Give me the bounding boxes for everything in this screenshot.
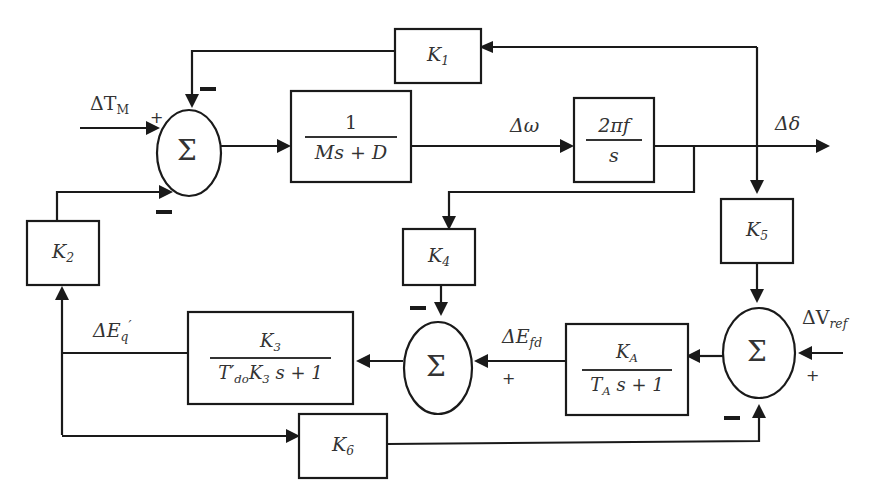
block-field-tf: K3 T′doK3 s + 1 (188, 312, 353, 404)
sign-minus-k2 (156, 210, 172, 214)
arrowhead (560, 139, 574, 153)
exciter-denominator: TA s + 1 (584, 371, 669, 398)
arrowhead (750, 180, 764, 194)
wire-k2-to-sum1 (57, 192, 165, 221)
arrowhead (434, 302, 448, 316)
arrowhead (816, 139, 830, 153)
label-vref-input: ΔVref (802, 306, 847, 331)
mech-numerator: 1 (339, 111, 363, 136)
sign-plus-vref: + (806, 366, 819, 385)
exciter-numerator: KA (610, 341, 644, 368)
arrowhead (277, 139, 291, 153)
summer-2-symbol: Σ (426, 350, 446, 383)
arrowhead (185, 94, 199, 108)
arrowhead (798, 346, 812, 360)
block-k2-label: K2 (27, 221, 99, 285)
label-efd: ΔEfd (502, 325, 542, 350)
block-integrator-tf: 2πf s (574, 98, 654, 182)
arrowhead (356, 354, 370, 368)
summer-3-symbol: Σ (747, 335, 767, 368)
label-omega: Δω (510, 114, 539, 136)
wire-to-k4 (449, 146, 694, 222)
arrowhead (286, 429, 300, 443)
block-exciter-tf: KA TA s + 1 (566, 324, 688, 415)
sign-minus-k6 (724, 416, 740, 420)
block-k5-label: K5 (721, 199, 793, 263)
summer-1-symbol: Σ (177, 134, 197, 167)
field-denominator: T′doK3 s + 1 (212, 359, 328, 386)
sign-minus-k4 (410, 306, 426, 310)
arrowhead (752, 404, 766, 418)
sign-plus-torque: + (150, 108, 163, 127)
arrowhead (474, 354, 488, 368)
label-eq: ΔEq′ (93, 318, 132, 344)
field-numerator: K3 (254, 330, 287, 357)
sign-plus-efd: + (502, 369, 515, 388)
arrowhead (442, 216, 456, 230)
block-mech-tf: 1 Ms + D (291, 91, 411, 182)
block-k4-label: K4 (403, 229, 475, 285)
wire-k6-to-sum3 (387, 412, 759, 444)
label-torque-input: ΔTM (90, 92, 129, 117)
arrowhead (750, 289, 764, 303)
integrator-denominator: s (603, 141, 625, 166)
arrowhead (55, 286, 69, 300)
label-delta: Δδ (775, 112, 800, 134)
sign-minus-k1 (200, 87, 216, 91)
block-k1-label: K1 (395, 29, 481, 83)
block-k6-label: K6 (299, 414, 387, 478)
mech-denominator: Ms + D (309, 138, 393, 163)
integrator-numerator: 2πf (592, 114, 636, 139)
